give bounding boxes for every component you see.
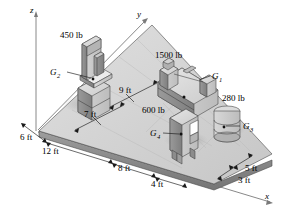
svg-text:G: G — [243, 121, 250, 131]
cg-dot-g3 — [223, 126, 226, 129]
svg-text:G: G — [150, 128, 157, 138]
svg-text:12 ft: 12 ft — [42, 146, 59, 156]
weight-label-g4: 600 lb — [142, 105, 165, 115]
axis-x-label: x — [264, 191, 269, 201]
axis-z: z — [29, 5, 38, 131]
svg-text:1: 1 — [219, 76, 222, 83]
cg-dot-g4 — [180, 133, 183, 136]
svg-text:G: G — [50, 67, 57, 77]
svg-text:3: 3 — [249, 126, 254, 133]
machine-g3 — [214, 106, 240, 142]
svg-text:8 ft: 8 ft — [118, 163, 131, 173]
svg-text:4 ft: 4 ft — [151, 179, 164, 189]
cg-dot-g1 — [183, 96, 186, 99]
figure-canvas: z y x — [0, 0, 285, 218]
svg-text:5 ft: 5 ft — [245, 163, 258, 173]
axis-y-label: y — [136, 9, 141, 19]
cg-dot-g2 — [92, 78, 95, 81]
axis-z-label: z — [29, 5, 34, 15]
statics-figure: z y x — [0, 0, 285, 218]
weight-label-g2: 450 lb — [60, 30, 83, 40]
svg-text:7 ft: 7 ft — [84, 109, 97, 119]
svg-text:G: G — [212, 71, 219, 81]
weight-label-g1: 1500 lb — [155, 50, 183, 60]
svg-text:2: 2 — [57, 72, 61, 79]
svg-text:3 ft: 3 ft — [238, 175, 251, 185]
weight-label-g3: 280 lb — [222, 93, 245, 103]
svg-text:9 ft: 9 ft — [119, 85, 132, 95]
cg-label-g2: G 2 — [50, 67, 61, 79]
svg-text:6 ft: 6 ft — [20, 132, 33, 142]
